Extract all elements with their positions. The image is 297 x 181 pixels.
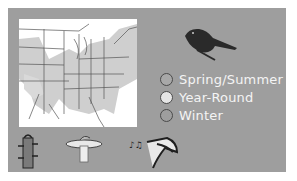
tube-feeder-icon	[16, 132, 40, 170]
legend-label: Winter	[179, 108, 223, 123]
bird-silhouette-icon	[183, 24, 241, 64]
spring-summer-swatch	[160, 73, 173, 86]
birdbath-icon	[64, 134, 104, 164]
range-map	[19, 19, 137, 127]
singing-bird-icon: ♪♫	[127, 134, 179, 170]
season-legend: Spring/Summer Year-Round Winter	[160, 70, 283, 124]
legend-label: Spring/Summer	[179, 72, 283, 87]
svg-text:♪♫: ♪♫	[129, 140, 143, 150]
winter-swatch	[160, 109, 173, 122]
year-round-swatch	[160, 91, 173, 104]
legend-item-winter: Winter	[160, 106, 283, 124]
legend-item-spring-summer: Spring/Summer	[160, 70, 283, 88]
legend-label: Year-Round	[179, 90, 254, 105]
legend-item-year-round: Year-Round	[160, 88, 283, 106]
